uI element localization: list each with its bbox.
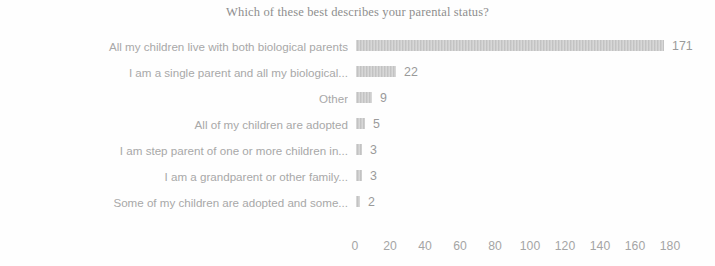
value-label: 2 — [368, 195, 375, 210]
x-axis-tick-label: 0 — [352, 239, 359, 254]
bar — [356, 92, 372, 103]
x-axis-tick-label: 160 — [625, 239, 645, 254]
category-label: Some of my children are adopted and some… — [0, 194, 348, 211]
value-label: 3 — [370, 143, 377, 158]
bar — [356, 118, 365, 129]
x-axis-tick-label: 100 — [520, 239, 540, 254]
value-label: 9 — [380, 91, 387, 106]
x-axis-tick-label: 20 — [383, 239, 397, 254]
x-axis-tick-label: 120 — [555, 239, 575, 254]
x-axis-tick-label: 80 — [488, 239, 502, 254]
x-axis-tick-label: 180 — [660, 239, 680, 254]
bar-row: I am a single parent and all my biologic… — [0, 64, 715, 90]
bar-track: 9 — [356, 92, 696, 104]
bar-row: Other 9 — [0, 90, 715, 116]
category-label: All of my children are adopted — [0, 116, 348, 133]
bar — [356, 170, 362, 181]
x-axis-tick-label: 60 — [453, 239, 467, 254]
category-label: I am a grandparent or other family... — [0, 168, 348, 185]
bar-track: 2 — [356, 196, 696, 208]
bar-row: I am step parent of one or more children… — [0, 142, 715, 168]
bar — [356, 196, 360, 207]
bar-track: 5 — [356, 118, 696, 130]
bar-row: Some of my children are adopted and some… — [0, 194, 715, 220]
bar-track: 171 — [356, 40, 696, 52]
bar — [356, 66, 396, 77]
category-label: Other — [0, 90, 348, 107]
x-axis-tick-label: 140 — [590, 239, 610, 254]
category-label: I am step parent of one or more children… — [0, 142, 348, 159]
value-label: 171 — [672, 39, 693, 54]
bar — [356, 40, 664, 51]
value-label: 3 — [370, 169, 377, 184]
plot-area: All my children live with both biologica… — [0, 38, 715, 233]
bar-row: All of my children are adopted 5 — [0, 116, 715, 142]
bar — [356, 144, 362, 155]
category-label: I am a single parent and all my biologic… — [0, 64, 348, 81]
bar-row: I am a grandparent or other family... 3 — [0, 168, 715, 194]
value-label: 22 — [404, 65, 418, 80]
x-axis-tick-label: 40 — [418, 239, 432, 254]
bar-track: 22 — [356, 66, 696, 78]
bar-track: 3 — [356, 170, 696, 182]
value-label: 5 — [373, 117, 380, 132]
category-label: All my children live with both biologica… — [0, 38, 348, 55]
bar-row: All my children live with both biologica… — [0, 38, 715, 64]
bar-chart: Which of these best describes your paren… — [0, 0, 715, 266]
chart-title: Which of these best describes your paren… — [0, 5, 715, 20]
bar-track: 3 — [356, 144, 696, 156]
x-axis: 0 20 40 60 80 100 120 140 160 180 — [0, 239, 715, 259]
